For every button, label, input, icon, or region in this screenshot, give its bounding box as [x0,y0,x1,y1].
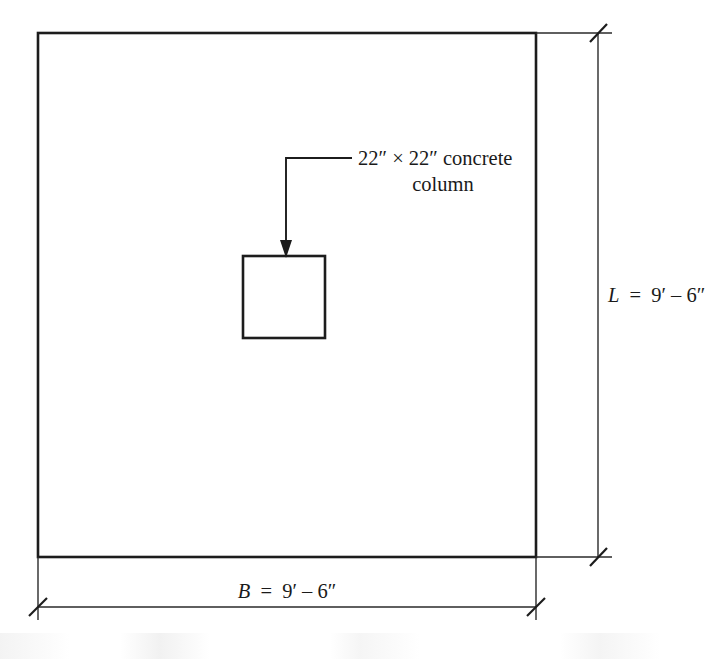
horizontal-dimension-symbol: B [238,580,251,602]
figure-container: 22″ × 22″ concrete column L = 9′ – 6″ B … [0,0,722,659]
vertical-dimension-symbol: L [607,284,619,306]
horizontal-dimension-value: 9′ – 6″ [282,580,336,602]
vertical-dimension-equals: = [630,284,642,306]
column-callout-line1: 22″ × 22″ concrete [358,147,512,169]
concrete-column-square [243,256,325,338]
column-callout-line2: column [412,173,474,195]
horizontal-dimension-label: B = 9′ – 6″ [238,580,336,602]
foundation-plan-diagram: 22″ × 22″ concrete column L = 9′ – 6″ B … [0,0,722,659]
horizontal-dimension-equals: = [260,580,272,602]
vertical-dimension-label: L = 9′ – 6″ [607,284,705,306]
vertical-dimension-value: 9′ – 6″ [651,284,705,306]
